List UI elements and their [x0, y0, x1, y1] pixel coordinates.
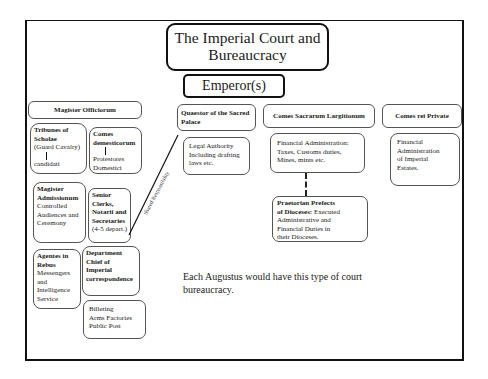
comes-rei-private-box: Comes rei Private: [382, 104, 462, 128]
caption-line-1: Each Augustus would have this type of co…: [183, 270, 403, 283]
comes-rei-private-desc-1: Financial: [397, 138, 456, 147]
quaestor-desc-1: Legal Authority: [189, 142, 246, 151]
quaestor-header-1: Quaestor of the Sacred: [181, 109, 252, 118]
quaestor-desc-3: laws etc.: [189, 159, 246, 168]
quaestor-header-2: Palace: [181, 118, 252, 127]
comes-rei-private-label: Comes rei Private: [395, 112, 449, 120]
praetorian-title-1: Praetorian Prefects: [277, 199, 364, 208]
praetorian-desc-3: Financial Duties in: [277, 225, 364, 234]
quaestor-desc-2: Including drafting: [189, 151, 246, 160]
caption-line-2: bureaucracy.: [183, 283, 403, 296]
comes-rei-private-desc-3: of Imperial: [397, 155, 456, 164]
quaestor-desc-box: Legal Authority Including drafting laws …: [183, 137, 250, 175]
comes-rei-private-desc-2: Administration: [397, 147, 456, 156]
shared-responsibility-line: [0, 0, 488, 379]
praetorian-desc-4: their Dioceses.: [277, 233, 364, 242]
quaestor-box: Quaestor of the Sacred Palace: [177, 104, 256, 131]
comes-sacrarum-desc-2: Taxes, Customs duties,: [277, 148, 361, 157]
praetorian-desc-2: Administrative and: [277, 216, 364, 225]
praetorian-prefects-box: Praetorian Prefects of Dioceses: Execute…: [272, 196, 368, 242]
praetorian-desc-1: Executed: [312, 208, 340, 216]
dashed-connector: [305, 173, 307, 196]
praetorian-title-2: of Dioceses:: [277, 208, 312, 216]
comes-sacrarum-desc-box: Financial Administration: Taxes, Customs…: [270, 133, 365, 173]
comes-sacrarum-desc-1: Financial Administration:: [277, 139, 361, 148]
comes-rei-private-desc-4: Estates.: [397, 164, 456, 173]
comes-sacrarum-desc-3: Mines, mints etc.: [277, 156, 361, 165]
comes-rei-private-desc-box: Financial Administration of Imperial Est…: [390, 133, 460, 186]
caption: Each Augustus would have this type of co…: [183, 270, 403, 296]
comes-sacrarum-label: Comes Sacrarum Largitionum: [273, 112, 365, 120]
comes-sacrarum-box: Comes Sacrarum Largitionum: [263, 104, 375, 128]
